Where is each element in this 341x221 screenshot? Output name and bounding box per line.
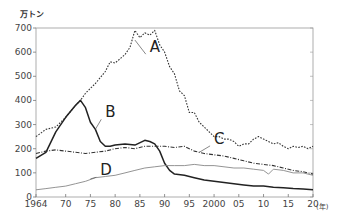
series-d-line: [36, 164, 313, 189]
y-tick-label: 700: [15, 23, 32, 33]
line-chart: 0100200300400500600700 19647075808590952…: [0, 0, 341, 221]
y-tick-label: 500: [15, 71, 32, 81]
y-tick-label: 200: [15, 144, 32, 154]
series-label-d: D: [100, 161, 112, 179]
x-tick-label: 85: [134, 199, 145, 209]
annotation-leader: [95, 119, 101, 129]
y-tick-label: 600: [15, 47, 32, 57]
series-a-line: [36, 30, 313, 148]
y-tick-label: 300: [15, 120, 32, 130]
x-tick-label: 10: [258, 199, 270, 209]
x-axis: 1964707580859095200005101520: [25, 194, 319, 209]
series-label-c: C: [214, 130, 224, 148]
x-tick-label: 05: [233, 199, 244, 209]
y-unit-label: 万トン: [19, 10, 44, 19]
y-tick-label: 400: [15, 95, 32, 105]
x-tick-label: 70: [60, 199, 72, 209]
series-b-line: [36, 100, 313, 189]
x-tick-label: 2000: [203, 199, 226, 209]
series-label-b: B: [105, 103, 115, 121]
x-tick-label: 80: [109, 199, 121, 209]
y-axis: 0100200300400500600700: [15, 23, 313, 202]
x-tick-label: 1964: [25, 199, 48, 209]
x-tick-label: 15: [283, 199, 294, 209]
x-unit-label: (年): [316, 202, 329, 211]
annotation-leader: [199, 146, 210, 152]
y-tick-label: 100: [15, 168, 32, 178]
annotation-leader: [135, 40, 146, 54]
x-tick-label: 75: [85, 199, 96, 209]
series-annotations: ABCD: [90, 38, 224, 179]
series-lines: [36, 30, 313, 189]
x-tick-label: 95: [184, 199, 195, 209]
x-tick-label: 90: [159, 199, 171, 209]
series-c-line: [36, 146, 313, 174]
series-label-a: A: [150, 38, 161, 56]
